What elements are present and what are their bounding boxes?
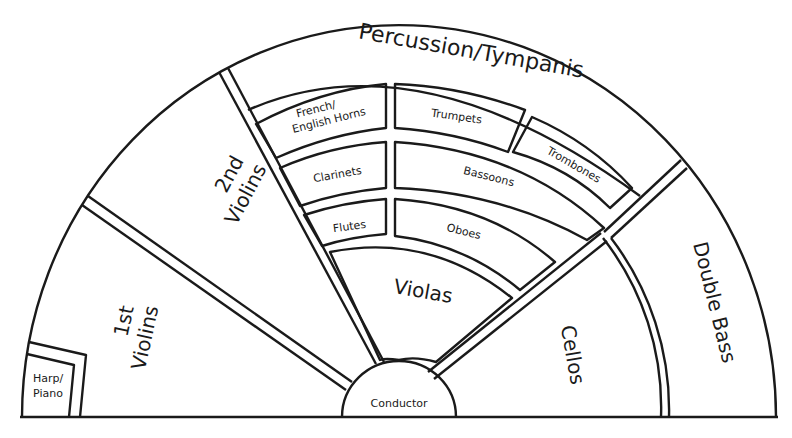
block-clarinets[interactable]: Clarinets [280,142,386,206]
svg-text:Harp/: Harp/ [33,372,64,385]
cellos-label: Cellos [556,323,590,386]
svg-text:French/ English Horns: French/ English Horns [287,91,367,135]
orchestra-seating-diagram: Conductor French/ English Horns Clarinet… [0,0,792,438]
divider-double-bass-arc [603,238,669,417]
first-violins-label: 1st Violins [103,298,164,372]
block-harp-piano[interactable]: Harp/ Piano [27,342,86,417]
block-flutes[interactable]: Flutes [304,199,386,246]
svg-text:Clarinets: Clarinets [312,164,363,185]
svg-text:Trumpets: Trumpets [429,106,483,126]
block-trombones[interactable]: Trombones [513,117,632,208]
double-bass-label: Double Bass [688,239,741,365]
svg-text:Oboes: Oboes [445,221,482,242]
block-oboes[interactable]: Oboes [395,199,555,290]
conductor-label: Conductor [371,397,428,410]
svg-text:Piano: Piano [33,387,63,400]
conductor-podium[interactable]: Conductor [342,361,456,417]
svg-text:Flutes: Flutes [332,218,367,236]
svg-text:Violas: Violas [392,274,455,308]
second-violins-label: 2nd Violins [198,148,271,228]
block-french-horns[interactable]: French/ English Horns [256,84,386,158]
percussion-label: Percussion/Tympanis [357,19,586,83]
